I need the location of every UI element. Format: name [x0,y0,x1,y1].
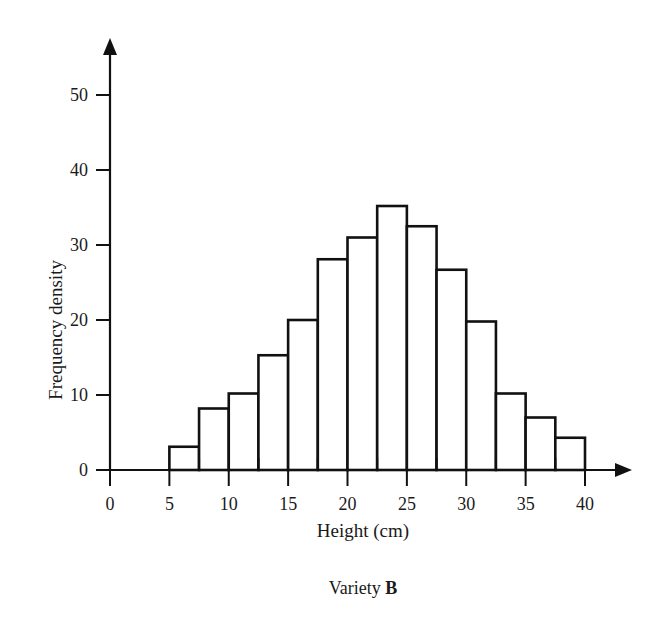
histogram-bar [169,447,199,470]
x-ticks-group [110,470,585,486]
y-tick-label: 40 [70,160,88,180]
histogram-bar [229,394,259,471]
histogram-bar [555,438,585,470]
caption-emphasis: B [385,578,397,598]
y-tick-label: 0 [79,460,88,480]
figure-caption: Variety B [329,578,398,598]
histogram-bar [466,322,496,471]
histogram-bar [348,238,378,471]
y-tick-label: 30 [70,235,88,255]
x-tick-labels-group: 0510152025303540 [106,494,595,514]
x-tick-label: 30 [457,494,475,514]
x-tick-label: 10 [220,494,238,514]
x-tick-label: 25 [398,494,416,514]
histogram-svg: Frequency density 0510152025303540 01020… [0,0,658,627]
histogram-bar [437,270,467,470]
y-tick-label: 10 [70,385,88,405]
plot-area: 0510152025303540 01020304050 [70,38,632,514]
bars-group [169,206,585,470]
x-tick-label: 15 [279,494,297,514]
y-axis-label: Frequency density [45,260,66,400]
x-tick-label: 40 [576,494,594,514]
histogram-figure: Frequency density 0510152025303540 01020… [0,0,658,627]
x-axis-label: Height (cm) [317,520,409,542]
y-axis-arrow-icon [103,38,117,55]
histogram-bar [496,394,526,471]
x-tick-label: 0 [106,494,115,514]
x-tick-label: 20 [339,494,357,514]
y-tick-label: 20 [70,310,88,330]
caption-prefix: Variety [329,578,385,598]
x-tick-label: 35 [517,494,535,514]
histogram-bar [199,409,229,471]
histogram-bar [377,206,407,470]
y-tick-labels-group: 01020304050 [70,85,88,480]
y-ticks-group [96,95,110,470]
histogram-bar [258,355,288,470]
histogram-bar [526,418,556,471]
x-axis-arrow-icon [615,463,632,477]
histogram-bar [318,259,348,470]
histogram-bar [407,226,437,470]
y-tick-label: 50 [70,85,88,105]
histogram-bar [288,320,318,470]
x-tick-label: 5 [165,494,174,514]
